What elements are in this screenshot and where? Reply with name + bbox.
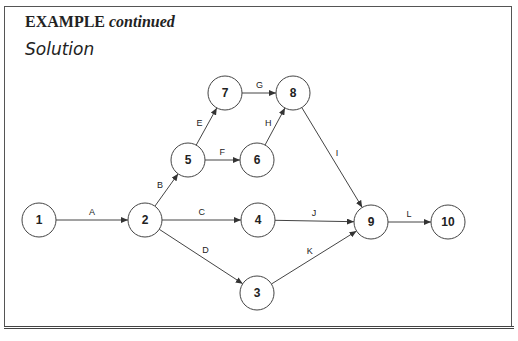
arrow-icon [271, 231, 356, 284]
activity-edge-h: H [265, 108, 285, 145]
arrow-icon [302, 108, 362, 208]
event-node-8: 8 [276, 76, 310, 110]
activity-label: A [89, 207, 95, 217]
node-label: 9 [368, 215, 375, 229]
activity-label: B [157, 180, 163, 190]
activity-label: K [307, 246, 313, 256]
activity-label: I [336, 148, 339, 158]
event-node-9: 9 [354, 205, 388, 239]
activity-network-diagram: ABCDEFGHIJKL 12345678910 [0, 0, 518, 341]
activity-label: J [312, 208, 317, 218]
activity-edge-b: B [155, 174, 178, 206]
event-node-7: 7 [208, 76, 242, 110]
activity-edge-i: I [302, 108, 362, 208]
activity-edge-d: D [159, 229, 243, 283]
node-label: 4 [255, 213, 262, 227]
node-label: 6 [254, 153, 261, 167]
activity-label: H [265, 118, 272, 128]
event-node-1: 1 [22, 203, 56, 237]
event-node-6: 6 [240, 143, 274, 177]
activity-label: C [199, 207, 206, 217]
activity-edge-f: F [205, 147, 240, 160]
node-label: 1 [36, 213, 43, 227]
activity-label: F [220, 147, 226, 157]
activity-label: D [202, 245, 209, 255]
arrow-icon [275, 220, 354, 221]
activity-edge-j: J [275, 208, 354, 222]
activity-label: L [407, 209, 412, 219]
event-node-4: 4 [241, 203, 275, 237]
node-label: 5 [185, 153, 192, 167]
activity-edge-k: K [271, 231, 356, 284]
activity-edge-a: A [56, 207, 128, 220]
node-label: 3 [254, 286, 261, 300]
activity-edge-e: E [196, 108, 217, 145]
node-label: 10 [441, 215, 455, 229]
arrow-icon [159, 229, 243, 283]
activity-edge-g: G [242, 80, 276, 93]
event-node-10: 10 [431, 205, 465, 239]
node-label: 8 [290, 86, 297, 100]
event-node-5: 5 [171, 143, 205, 177]
event-node-3: 3 [240, 276, 274, 310]
activity-label: G [256, 80, 263, 90]
node-label: 2 [142, 213, 149, 227]
node-label: 7 [222, 86, 229, 100]
activity-edge-l: L [388, 209, 431, 222]
activity-label: E [196, 118, 202, 128]
event-node-2: 2 [128, 203, 162, 237]
activity-edge-c: C [162, 207, 241, 220]
